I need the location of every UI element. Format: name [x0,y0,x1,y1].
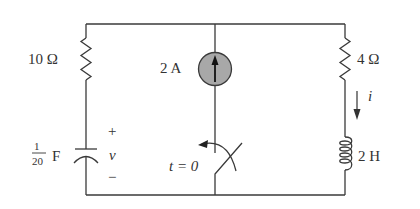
arrow-down-icon [354,109,361,120]
circuit-diagram: 10 Ω 1 20 F + v − 2 A t = 0 4 Ω i 2 H [0,0,420,209]
switch-blade [215,143,242,195]
switch-arc-arrow-icon [198,140,208,148]
capacitor-label-unit: F [52,148,60,164]
right-branch [340,24,361,195]
current-label-i: i [368,88,372,104]
switch-arc [202,143,236,171]
resistor-4-ohm [340,38,350,80]
capacitor-label-denominator: 20 [32,155,44,167]
inductor-2h [340,137,352,170]
resistor-left-label: 10 Ω [28,51,58,67]
current-source-label: 2 A [160,60,181,76]
voltage-label-v: v [109,147,116,163]
capacitor-label: 1 20 F [32,140,60,167]
capacitor-label-numerator: 1 [34,140,40,152]
voltage-minus-sign: − [108,169,116,185]
middle-branch [198,24,242,195]
switch-label: t = 0 [169,158,199,174]
inductor-label: 2 H [358,148,380,164]
left-branch [74,24,98,195]
voltage-plus-sign: + [108,123,116,139]
resistor-10-ohm [81,38,91,80]
resistor-right-label: 4 Ω [357,51,379,67]
